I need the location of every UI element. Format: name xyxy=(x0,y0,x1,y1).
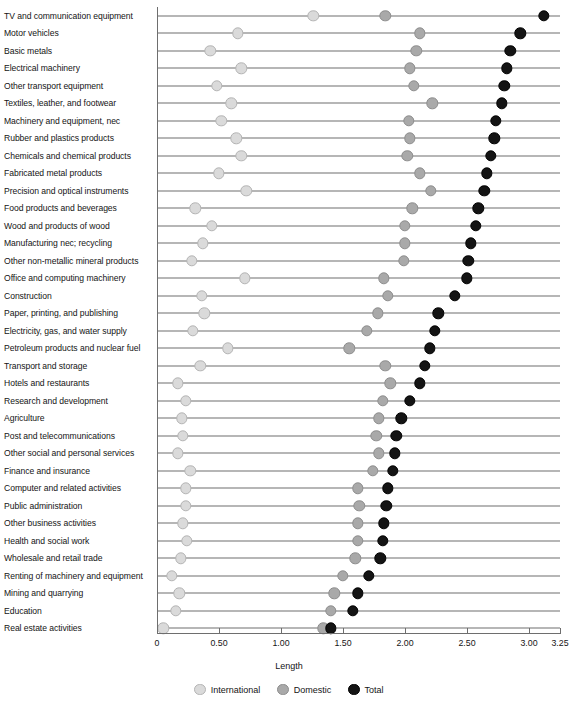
data-point-total[interactable] xyxy=(347,605,358,616)
data-point-international[interactable] xyxy=(222,343,233,354)
data-point-total[interactable] xyxy=(449,290,460,301)
data-point-domestic[interactable] xyxy=(329,588,340,599)
data-point-total[interactable] xyxy=(496,98,507,109)
data-point-international[interactable] xyxy=(176,413,187,424)
data-point-international[interactable] xyxy=(231,133,242,144)
data-point-total[interactable] xyxy=(481,168,492,179)
data-point-international[interactable] xyxy=(236,63,247,74)
data-point-international[interactable] xyxy=(226,98,237,109)
data-point-international[interactable] xyxy=(206,220,217,231)
data-point-international[interactable] xyxy=(205,45,216,56)
data-point-international[interactable] xyxy=(308,10,319,21)
data-point-total[interactable] xyxy=(498,80,509,91)
data-point-domestic[interactable] xyxy=(379,360,390,371)
data-point-international[interactable] xyxy=(197,238,208,249)
data-point-domestic[interactable] xyxy=(367,465,378,476)
data-point-total[interactable] xyxy=(381,500,392,511)
data-point-domestic[interactable] xyxy=(404,133,415,144)
data-point-international[interactable] xyxy=(172,448,183,459)
data-point-international[interactable] xyxy=(190,203,201,214)
data-point-total[interactable] xyxy=(396,413,407,424)
data-point-total[interactable] xyxy=(472,203,483,214)
data-point-international[interactable] xyxy=(180,395,191,406)
data-point-total[interactable] xyxy=(382,483,393,494)
data-point-international[interactable] xyxy=(239,273,250,284)
data-point-domestic[interactable] xyxy=(410,45,421,56)
data-point-domestic[interactable] xyxy=(325,605,336,616)
data-point-international[interactable] xyxy=(198,308,209,319)
data-point-total[interactable] xyxy=(501,63,512,74)
data-point-total[interactable] xyxy=(389,448,400,459)
data-point-total[interactable] xyxy=(485,150,496,161)
data-point-domestic[interactable] xyxy=(414,168,425,179)
data-point-international[interactable] xyxy=(186,255,197,266)
data-point-domestic[interactable] xyxy=(379,10,390,21)
data-point-international[interactable] xyxy=(232,28,243,39)
data-point-international[interactable] xyxy=(172,378,183,389)
data-point-domestic[interactable] xyxy=(402,150,413,161)
data-point-total[interactable] xyxy=(515,28,526,39)
data-point-domestic[interactable] xyxy=(404,63,415,74)
data-point-domestic[interactable] xyxy=(408,80,419,91)
data-point-domestic[interactable] xyxy=(398,255,409,266)
data-point-international[interactable] xyxy=(241,185,252,196)
data-point-total[interactable] xyxy=(433,308,444,319)
data-point-total[interactable] xyxy=(377,535,388,546)
data-point-total[interactable] xyxy=(470,220,481,231)
data-point-international[interactable] xyxy=(175,553,186,564)
data-point-total[interactable] xyxy=(465,238,476,249)
data-point-total[interactable] xyxy=(538,10,549,21)
data-point-total[interactable] xyxy=(387,465,398,476)
data-point-total[interactable] xyxy=(424,343,435,354)
data-point-total[interactable] xyxy=(352,588,363,599)
data-point-domestic[interactable] xyxy=(343,343,354,354)
data-point-total[interactable] xyxy=(479,185,490,196)
data-point-international[interactable] xyxy=(196,290,207,301)
data-point-total[interactable] xyxy=(419,360,430,371)
data-point-international[interactable] xyxy=(187,325,198,336)
data-point-international[interactable] xyxy=(177,518,188,529)
data-point-international[interactable] xyxy=(180,483,191,494)
data-point-domestic[interactable] xyxy=(407,203,418,214)
data-point-domestic[interactable] xyxy=(373,448,384,459)
data-point-domestic[interactable] xyxy=(372,308,383,319)
data-point-total[interactable] xyxy=(429,325,440,336)
data-point-domestic[interactable] xyxy=(352,518,363,529)
data-point-total[interactable] xyxy=(461,273,472,284)
legend-item-total[interactable]: Total xyxy=(348,684,383,695)
data-point-international[interactable] xyxy=(213,168,224,179)
data-point-domestic[interactable] xyxy=(399,220,410,231)
data-point-international[interactable] xyxy=(216,115,227,126)
data-point-domestic[interactable] xyxy=(403,115,414,126)
data-point-domestic[interactable] xyxy=(399,238,410,249)
data-point-total[interactable] xyxy=(378,518,389,529)
data-point-domestic[interactable] xyxy=(427,98,438,109)
data-point-total[interactable] xyxy=(374,553,385,564)
data-point-international[interactable] xyxy=(170,605,181,616)
data-point-total[interactable] xyxy=(490,115,501,126)
data-point-domestic[interactable] xyxy=(353,500,364,511)
data-point-domestic[interactable] xyxy=(350,553,361,564)
data-point-domestic[interactable] xyxy=(352,535,363,546)
data-point-international[interactable] xyxy=(177,430,188,441)
data-point-international[interactable] xyxy=(166,570,177,581)
data-point-domestic[interactable] xyxy=(378,273,389,284)
data-point-total[interactable] xyxy=(463,255,474,266)
data-point-international[interactable] xyxy=(181,535,192,546)
data-point-total[interactable] xyxy=(391,430,402,441)
data-point-international[interactable] xyxy=(185,465,196,476)
legend-item-domestic[interactable]: Domestic xyxy=(277,684,331,695)
data-point-total[interactable] xyxy=(414,378,425,389)
data-point-domestic[interactable] xyxy=(384,378,395,389)
data-point-domestic[interactable] xyxy=(337,570,348,581)
data-point-international[interactable] xyxy=(211,80,222,91)
data-point-domestic[interactable] xyxy=(382,290,393,301)
data-point-international[interactable] xyxy=(180,500,191,511)
data-point-domestic[interactable] xyxy=(425,185,436,196)
data-point-domestic[interactable] xyxy=(414,28,425,39)
data-point-domestic[interactable] xyxy=(377,395,388,406)
data-point-international[interactable] xyxy=(236,150,247,161)
data-point-domestic[interactable] xyxy=(371,430,382,441)
data-point-domestic[interactable] xyxy=(373,413,384,424)
data-point-international[interactable] xyxy=(174,588,185,599)
